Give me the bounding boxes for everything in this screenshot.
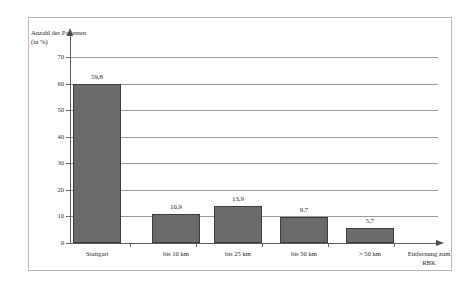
x-tick-mark-2 bbox=[196, 243, 197, 247]
gridline-60 bbox=[70, 84, 438, 85]
bar-value-stuttgart: 59,8 bbox=[73, 74, 121, 81]
x-tick-mark-5 bbox=[394, 243, 395, 247]
y-tick-label-60: 60 bbox=[48, 81, 64, 88]
bar-value-bis-10-km: 10,9 bbox=[152, 204, 200, 211]
x-tick-mark-4 bbox=[328, 243, 329, 247]
gridline-50 bbox=[70, 110, 438, 111]
bar-value-bis-25-km: 13,9 bbox=[214, 196, 262, 203]
bar-value-bis-50-km: 9,7 bbox=[280, 207, 328, 214]
x-category-label-bis-10-km: bis 10 km bbox=[152, 250, 200, 258]
gridline-20 bbox=[70, 190, 438, 191]
x-axis-title: Entfernung zum RBK bbox=[404, 250, 454, 268]
bar-stuttgart bbox=[73, 84, 121, 243]
x-axis-arrow-icon bbox=[436, 240, 444, 246]
y-tick-label-10: 10 bbox=[48, 213, 64, 220]
y-axis-line bbox=[70, 35, 71, 244]
x-category-label-gt-50-km: > 50 km bbox=[346, 250, 394, 258]
x-category-label-bis-50-km: bis 50 km bbox=[280, 250, 328, 258]
bar-value-gt-50-km: 5,7 bbox=[346, 218, 394, 225]
y-axis-title: Anzahl der Patienten (in %) bbox=[31, 29, 91, 47]
x-tick-mark-3 bbox=[262, 243, 263, 247]
y-tick-label-40: 40 bbox=[48, 134, 64, 141]
x-category-label-stuttgart: Stuttgart bbox=[73, 250, 121, 258]
gridline-30 bbox=[70, 163, 438, 164]
y-tick-label-0: 0 bbox=[48, 240, 64, 247]
y-tick-label-70: 70 bbox=[48, 54, 64, 61]
y-tick-label-50: 50 bbox=[48, 107, 64, 114]
bar-chart-plot: Anzahl der Patienten (in %) 70 60 50 40 … bbox=[0, 0, 460, 293]
y-tick-label-20: 20 bbox=[48, 187, 64, 194]
y-axis-arrow-icon bbox=[67, 28, 73, 36]
y-tick-label-30: 30 bbox=[48, 160, 64, 167]
gridline-70 bbox=[70, 57, 438, 58]
bar-gt-50-km bbox=[346, 228, 394, 243]
bar-bis-10-km bbox=[152, 214, 200, 243]
x-category-label-bis-25-km: bis 25 km bbox=[214, 250, 262, 258]
bar-bis-25-km bbox=[214, 206, 262, 243]
bar-bis-50-km bbox=[280, 217, 328, 243]
x-axis-line bbox=[70, 243, 438, 244]
figure-container: Anzahl der Patienten (in %) 70 60 50 40 … bbox=[0, 0, 460, 293]
gridline-40 bbox=[70, 137, 438, 138]
x-tick-mark-1 bbox=[130, 243, 131, 247]
